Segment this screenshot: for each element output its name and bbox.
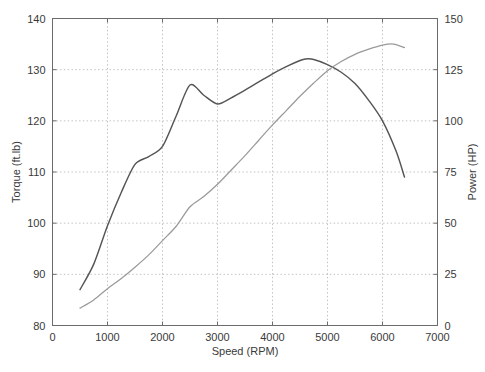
chart-figure: 0100020003000400050006000700080901001101… xyxy=(0,0,485,372)
y2-tick-label: 50 xyxy=(445,217,457,229)
y-tick-label: 90 xyxy=(33,268,45,280)
y2-tick-label: 150 xyxy=(445,13,463,25)
y2-tick-label: 100 xyxy=(445,115,463,127)
data-series-layer xyxy=(80,44,405,308)
x-tick-label: 0 xyxy=(49,331,55,343)
x-tick-label: 7000 xyxy=(425,331,449,343)
y-tick-label: 120 xyxy=(27,115,45,127)
x-tick-label: 6000 xyxy=(370,331,394,343)
bottom-axis-title: Speed (RPM) xyxy=(212,345,279,357)
right-axis-title: Power (HP) xyxy=(466,144,478,201)
y-tick-label: 130 xyxy=(27,64,45,76)
y-tick-label: 100 xyxy=(27,217,45,229)
left-axis-title: Torque (ft.lb) xyxy=(10,141,22,203)
dyno-chart-plot: 0100020003000400050006000700080901001101… xyxy=(0,0,485,372)
y2-tick-label: 0 xyxy=(445,320,451,332)
x-tick-label: 1000 xyxy=(95,331,119,343)
axis-tick-labels: 0100020003000400050006000700080901001101… xyxy=(27,13,463,343)
x-tick-label: 2000 xyxy=(150,331,174,343)
x-tick-label: 4000 xyxy=(260,331,284,343)
y-tick-label: 140 xyxy=(27,13,45,25)
y-tick-label: 110 xyxy=(28,166,46,178)
grid-lines xyxy=(53,19,438,326)
y2-tick-label: 125 xyxy=(445,64,463,76)
y-tick-label: 80 xyxy=(33,320,45,332)
x-tick-label: 5000 xyxy=(315,331,339,343)
x-tick-label: 3000 xyxy=(205,331,229,343)
series-line-torque xyxy=(80,59,405,290)
y2-tick-label: 75 xyxy=(445,166,457,178)
y2-tick-label: 25 xyxy=(445,268,457,280)
